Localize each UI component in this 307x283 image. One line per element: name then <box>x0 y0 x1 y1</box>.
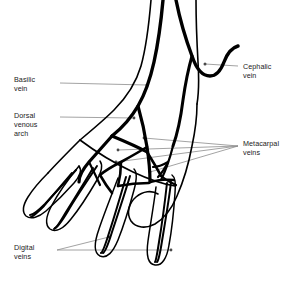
basilic-vein <box>112 0 163 136</box>
metacarpal-vein-3 <box>100 175 112 193</box>
hand-ulnar-border <box>48 140 80 173</box>
label-cephalic-vein: Cephalic vein <box>243 62 271 80</box>
digital-veins-finger-3 <box>101 176 130 253</box>
leader-metacarpal-4 <box>150 146 238 172</box>
forearm-right-edge <box>196 0 199 104</box>
cephalic-vein <box>176 0 238 76</box>
metacarpal-vein-1 <box>100 147 147 175</box>
thumb-veins <box>153 146 173 180</box>
leader-dorsal <box>60 117 134 118</box>
label-dorsal-venous-arch: Dorsal venous arch <box>14 111 37 139</box>
label-basilic-vein: Basilic vein <box>14 75 35 93</box>
dorsal-venous-arch-main <box>138 106 150 182</box>
veins <box>30 0 238 262</box>
leader-digital-1 <box>57 237 109 250</box>
leader-metacarpal-1 <box>144 138 238 146</box>
hand-outline <box>48 0 199 227</box>
label-metacarpal-veins: Metacarpal veins <box>243 139 279 157</box>
label-digital-veins: Digital veins <box>14 243 34 261</box>
cephalic-vein-branch <box>173 56 192 146</box>
